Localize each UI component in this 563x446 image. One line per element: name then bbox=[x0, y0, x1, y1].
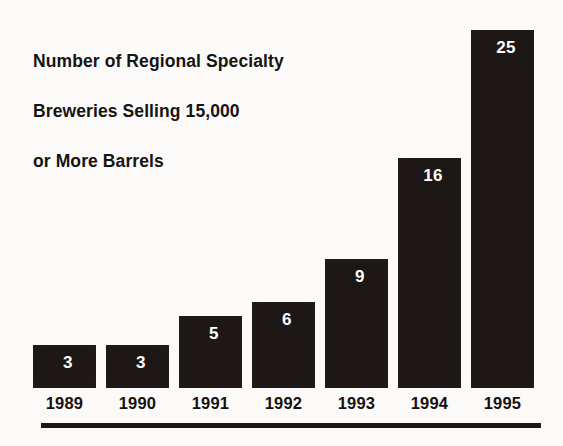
x-tick-label-1989: 1989 bbox=[33, 392, 96, 414]
bar-value-label-1989: 3 bbox=[33, 353, 96, 372]
bar-1989[interactable]: 3 bbox=[33, 345, 96, 388]
bar-chart-figure: Number of Regional Specialty Breweries S… bbox=[0, 0, 563, 446]
bar-1995[interactable]: 25 bbox=[471, 30, 534, 388]
bar-value-label-1992: 6 bbox=[252, 310, 315, 329]
x-axis-rule bbox=[41, 423, 541, 428]
x-tick-label-1990: 1990 bbox=[106, 392, 169, 414]
bar-value-label-1995: 25 bbox=[471, 38, 534, 57]
bar-1991[interactable]: 5 bbox=[179, 316, 242, 388]
bar-1994[interactable]: 16 bbox=[398, 158, 461, 388]
bar-1990[interactable]: 3 bbox=[106, 345, 169, 388]
x-axis-labels: 1989 1990 1991 1992 1993 1994 1995 bbox=[33, 392, 544, 418]
bar-value-label-1990: 3 bbox=[106, 353, 169, 372]
x-tick-label-1993: 1993 bbox=[325, 392, 388, 414]
x-tick-label-1994: 1994 bbox=[398, 392, 461, 414]
bar-1992[interactable]: 6 bbox=[252, 302, 315, 388]
bar-value-label-1994: 16 bbox=[398, 166, 461, 185]
bar-value-label-1993: 9 bbox=[325, 267, 388, 286]
x-tick-label-1992: 1992 bbox=[252, 392, 315, 414]
x-tick-label-1991: 1991 bbox=[179, 392, 242, 414]
bar-value-label-1991: 5 bbox=[179, 324, 242, 343]
x-tick-label-1995: 1995 bbox=[471, 392, 534, 414]
plot-area: 3 3 5 6 9 16 bbox=[33, 18, 544, 388]
bar-1993[interactable]: 9 bbox=[325, 259, 388, 388]
